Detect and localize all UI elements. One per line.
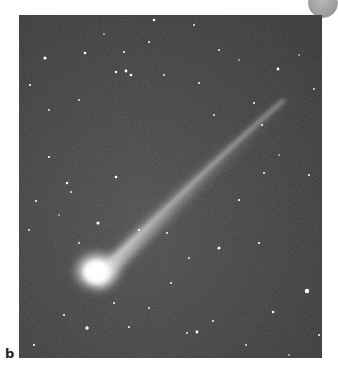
comet-photograph xyxy=(19,15,322,358)
panel-label: b xyxy=(5,347,14,360)
comet-head xyxy=(71,249,123,293)
comet-image xyxy=(19,15,322,358)
